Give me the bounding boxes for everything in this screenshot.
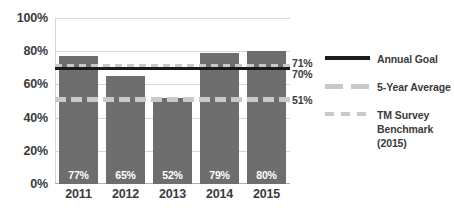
legend-item-annual-goal[interactable]: Annual Goal xyxy=(325,52,438,66)
reference-line-annual-goal xyxy=(55,67,290,70)
y-tick-label-60: 60% xyxy=(24,78,48,91)
x-tick-label-2012: 2012 xyxy=(102,188,149,201)
legend-label-tm-survey-benchmark: TM Survey Benchmark (2015) xyxy=(370,108,454,151)
legend-swatch-long-dash-line-icon xyxy=(325,84,370,89)
legend-item-tm-survey-benchmark[interactable]: TM Survey Benchmark (2015) xyxy=(325,108,454,151)
plot-area: 77% 65% 52% 79% 80% xyxy=(55,18,290,184)
reference-value-callouts: 71% 70% 51% xyxy=(292,18,332,184)
bar-value-2013: 52% xyxy=(153,170,192,181)
bar-value-2012: 65% xyxy=(106,170,145,181)
bar-2015[interactable]: 80% xyxy=(247,51,286,184)
bar-2011[interactable]: 77% xyxy=(59,56,98,184)
bar-chart: 100% 80% 60% 40% 20% 0% 77% 65% xyxy=(0,0,454,217)
reference-line-5-year-average xyxy=(55,97,290,102)
legend-label-5-year-average: 5-Year Average xyxy=(370,80,451,94)
bar-2012[interactable]: 65% xyxy=(106,76,145,184)
bar-2014[interactable]: 79% xyxy=(200,53,239,184)
legend-swatch-solid-line-icon xyxy=(325,56,370,60)
y-tick-label-20: 20% xyxy=(24,145,48,158)
y-tick-label-80: 80% xyxy=(24,45,48,58)
x-tick-label-2011: 2011 xyxy=(55,188,102,201)
legend-label-annual-goal: Annual Goal xyxy=(370,52,438,66)
legend-item-5-year-average[interactable]: 5-Year Average xyxy=(325,80,451,94)
legend-swatch-short-dash-line-icon xyxy=(325,112,370,116)
x-tick-label-2013: 2013 xyxy=(149,188,196,201)
y-tick-label-40: 40% xyxy=(24,111,48,124)
bar-value-2014: 79% xyxy=(200,170,239,181)
x-tick-label-2014: 2014 xyxy=(196,188,243,201)
x-tick-label-2015: 2015 xyxy=(243,188,290,201)
reference-value-51: 51% xyxy=(292,94,312,105)
bar-value-2015: 80% xyxy=(247,170,286,181)
bar-value-2011: 77% xyxy=(59,170,98,181)
y-tick-label-100: 100% xyxy=(17,12,48,25)
y-axis: 100% 80% 60% 40% 20% 0% xyxy=(0,0,52,217)
y-tick-label-0: 0% xyxy=(30,178,48,191)
x-axis: 2011 2012 2013 2014 2015 xyxy=(55,188,290,210)
reference-value-70: 70% xyxy=(292,68,312,79)
bar-2013[interactable]: 52% xyxy=(153,98,192,184)
